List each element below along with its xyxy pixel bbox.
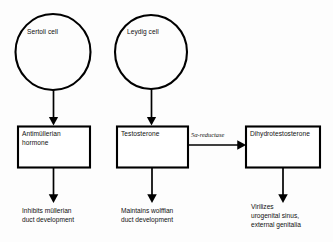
leydig-cell-label: Leydig cell <box>127 28 189 37</box>
sertoli-cell-shape <box>16 14 91 90</box>
outcome-caption-wolffian: Maintains wolffian duct development <box>121 206 213 224</box>
outcome-caption-virilization: Virilizes urogenital sinus, external gen… <box>251 202 333 230</box>
dht-box-label: Dihydrotestosterone <box>250 130 320 139</box>
testosterone-box-label: Testosterone <box>121 130 187 139</box>
amh-box-label: Antimüllerian hormone <box>22 130 88 147</box>
diagram-canvas: Sertoli cell Leydig cell Antimüllerian h… <box>0 0 333 242</box>
leydig-cell-shape <box>115 15 187 89</box>
sertoli-cell-label: Sertoli cell <box>27 28 89 37</box>
outcome-caption-mullerian: Inhibits müllerian duct development <box>22 206 112 224</box>
enzyme-label-5a-reductase: 5α-reductase <box>191 131 224 138</box>
